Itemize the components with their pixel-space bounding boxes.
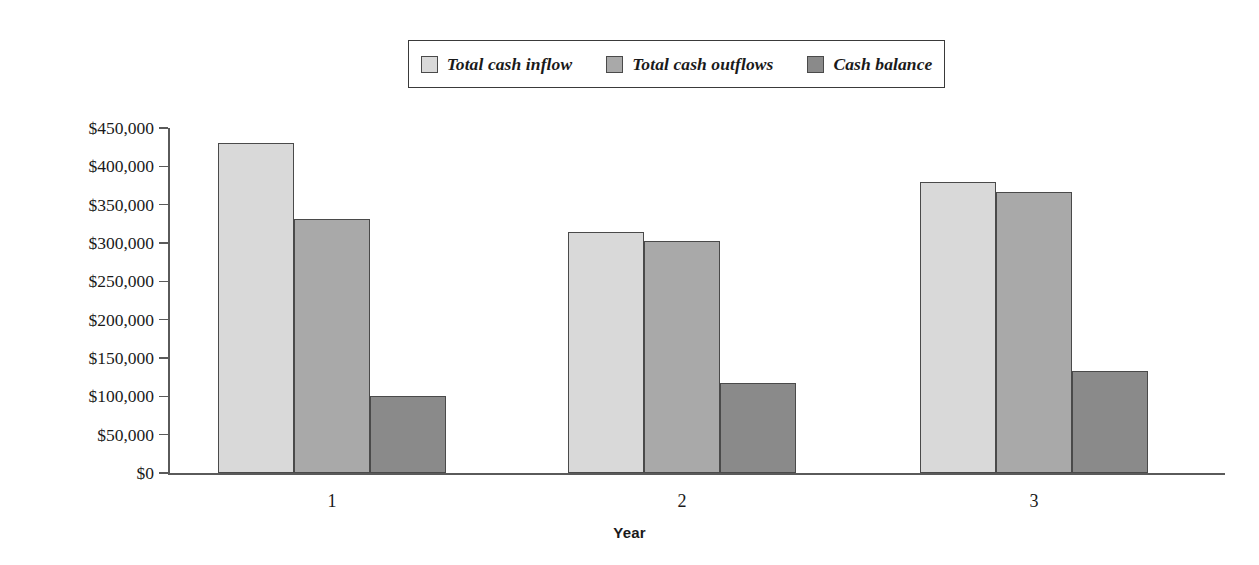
y-axis-tick — [159, 166, 168, 168]
x-axis-tick-label: 1 — [328, 491, 337, 512]
legend-swatch-icon-total-cash-outflows — [606, 56, 623, 73]
bar-1-group-2 — [568, 232, 644, 473]
y-axis-tick — [159, 281, 168, 283]
bar-1-group-3 — [920, 182, 996, 473]
x-axis-tick-label: 3 — [1030, 491, 1039, 512]
legend-item-total-cash-outflows: Total cash outflows — [606, 54, 773, 75]
y-axis-tick — [159, 357, 168, 359]
bar-2-group-1 — [294, 219, 370, 473]
legend-label-cash-balance: Cash balance — [833, 54, 932, 75]
y-axis-tick-label: $200,000 — [0, 309, 154, 330]
y-axis-tick-label: $50,000 — [0, 424, 154, 445]
legend-swatch-icon-cash-balance — [807, 56, 824, 73]
plot-area — [168, 128, 1225, 473]
bar-chart: Total cash inflow Total cash outflows Ca… — [0, 0, 1259, 565]
y-axis-line — [168, 128, 170, 473]
bar-3-group-3 — [1072, 371, 1148, 473]
legend-item-cash-balance: Cash balance — [807, 54, 932, 75]
x-axis-title: Year — [0, 524, 1259, 541]
bar-2-group-2 — [644, 241, 720, 473]
chart-legend: Total cash inflow Total cash outflows Ca… — [408, 40, 945, 88]
x-axis-tick-label: 2 — [678, 491, 687, 512]
y-axis-tick — [159, 319, 168, 321]
y-axis-tick-label: $400,000 — [0, 156, 154, 177]
y-axis-tick-label: $0 — [0, 463, 154, 484]
y-axis-tick — [159, 472, 168, 474]
legend-swatch-icon-total-cash-inflow — [421, 56, 438, 73]
y-axis-tick — [159, 127, 168, 129]
y-axis-tick — [159, 204, 168, 206]
y-axis-tick-label: $250,000 — [0, 271, 154, 292]
y-axis-tick-label: $300,000 — [0, 233, 154, 254]
bar-1-group-1 — [218, 143, 294, 473]
legend-label-total-cash-outflows: Total cash outflows — [632, 54, 773, 75]
y-axis-tick — [159, 434, 168, 436]
y-axis-tick — [159, 242, 168, 244]
y-axis-tick-label: $100,000 — [0, 386, 154, 407]
bar-3-group-1 — [370, 396, 446, 473]
y-axis-tick-label: $350,000 — [0, 194, 154, 215]
y-axis-tick-label: $450,000 — [0, 118, 154, 139]
x-axis-line — [168, 473, 1225, 475]
bar-3-group-2 — [720, 383, 796, 473]
legend-item-total-cash-inflow: Total cash inflow — [421, 54, 573, 75]
y-axis-tick — [159, 396, 168, 398]
legend-label-total-cash-inflow: Total cash inflow — [447, 54, 573, 75]
y-axis-tick-label: $150,000 — [0, 348, 154, 369]
bar-2-group-3 — [996, 192, 1072, 473]
